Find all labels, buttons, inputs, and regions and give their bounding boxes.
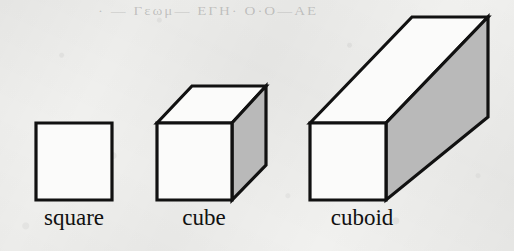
cube-front-face	[157, 123, 232, 200]
shape-label-cube: cube	[152, 206, 256, 229]
cuboid-front-face	[310, 123, 386, 200]
square-front-face	[36, 123, 112, 200]
shape-cube	[157, 86, 266, 200]
shape-cuboid	[310, 17, 488, 200]
shape-label-cuboid: cuboid	[300, 206, 424, 229]
shape-square	[36, 123, 112, 200]
shape-label-square: square	[22, 206, 126, 229]
figure-canvas: · — Γεωμ— ΕΓΗ· Ο·Ο—ΑΕ square cube cuboid	[0, 0, 514, 251]
